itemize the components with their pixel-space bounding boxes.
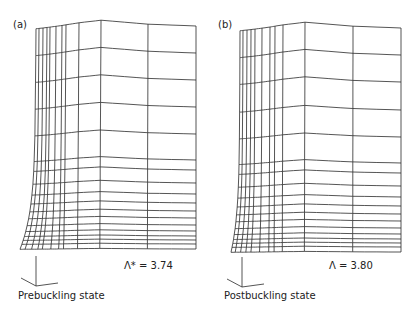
state-label-b: Postbuckling state xyxy=(224,290,316,301)
panel-tag-a: (a) xyxy=(13,19,27,30)
axes-triad-b xyxy=(227,257,264,287)
load-factor-a: Λ* = 3.74 xyxy=(124,260,173,271)
axes-triad-a xyxy=(21,256,58,286)
state-label-a: Prebuckling state xyxy=(18,290,105,301)
load-factor-b: Λ = 3.80 xyxy=(329,260,373,271)
mesh-prebuckling xyxy=(20,20,196,249)
panel-tag-b: (b) xyxy=(218,19,232,30)
mesh-postbuckling xyxy=(231,22,401,252)
